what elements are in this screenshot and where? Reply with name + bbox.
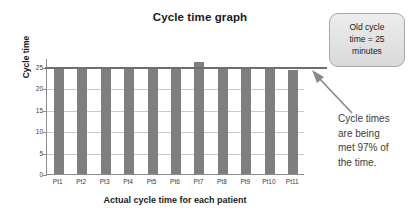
callout-arrow-icon: [308, 68, 358, 116]
x-tick-label: Pt7: [185, 179, 211, 186]
old-cycle-time-reference-line: [45, 67, 327, 69]
x-tick-label: Pt6: [162, 179, 188, 186]
x-tick-label: Pt4: [115, 179, 141, 186]
y-tick-label: 20: [27, 86, 43, 93]
bar: [171, 67, 181, 174]
bar: [124, 67, 134, 174]
x-tick-label: Pt3: [92, 179, 118, 186]
x-axis-tick-labels: Pt1Pt2Pt3Pt4Pt5Pt6Pt7Pt8Pt9Pt10Pt11: [46, 179, 304, 191]
y-tick-label: 15: [27, 108, 43, 115]
x-tick-label: Pt8: [209, 179, 235, 186]
y-tick-label: 0: [27, 172, 43, 179]
y-axis-ticks: 0510152025: [26, 59, 43, 175]
bar: [101, 67, 111, 174]
x-tick-label: Pt1: [45, 179, 71, 186]
y-tick-label: 10: [27, 129, 43, 136]
y-tick-label: 25: [27, 65, 43, 72]
bar: [194, 62, 204, 174]
old-cycle-time-callout-text: Old cycle time = 25 minutes: [349, 22, 384, 57]
bar: [77, 67, 87, 174]
bar-series: [47, 59, 304, 174]
cycle-times-met-note: Cycle times are being met 97% of the tim…: [338, 112, 419, 170]
bar: [288, 70, 298, 174]
x-tick-label: Pt10: [256, 179, 282, 186]
bar: [218, 67, 228, 174]
y-tick-mark: [43, 175, 47, 176]
y-tick-label: 5: [27, 151, 43, 158]
plot-area: [46, 59, 304, 175]
x-tick-label: Pt5: [139, 179, 165, 186]
x-axis-title: Actual cycle time for each patient: [46, 195, 304, 205]
x-tick-label: Pt11: [279, 179, 305, 186]
bar: [54, 67, 64, 174]
bar: [241, 67, 251, 174]
cycle-time-chart-figure: Cycle time graph Cycle time 0510152025 P…: [0, 0, 419, 220]
bar: [265, 67, 275, 174]
old-cycle-time-callout: Old cycle time = 25 minutes: [329, 13, 405, 67]
x-tick-label: Pt9: [232, 179, 258, 186]
x-tick-label: Pt2: [68, 179, 94, 186]
chart-title: Cycle time graph: [110, 11, 290, 23]
bar: [148, 67, 158, 174]
